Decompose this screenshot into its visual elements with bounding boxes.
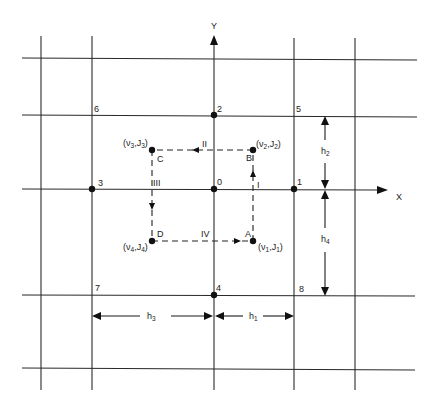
- h2-label: h2: [321, 146, 330, 157]
- grid-line-h-2: [22, 115, 417, 117]
- dimension-h4: h4: [321, 190, 330, 296]
- x-axis-label: X: [396, 192, 402, 202]
- path-label-I: I: [257, 180, 260, 190]
- grid-line-h-axis: [22, 189, 378, 190]
- grid-line-h-1: [22, 58, 417, 60]
- path-II-arrow-left-icon: [192, 147, 199, 153]
- h2-arrow-down-icon: [321, 180, 329, 189]
- grid-line-h-5: [22, 368, 415, 370]
- h2-arrow-up-icon: [321, 116, 329, 125]
- point-B-label: B: [246, 153, 252, 163]
- grid-line-h-4: [22, 295, 415, 296]
- grid-nodes: [89, 112, 297, 298]
- node-3-label: 3: [98, 178, 103, 188]
- node-0-label: 0: [217, 177, 222, 187]
- path-label-III: III: [153, 178, 161, 188]
- point-A-coord: (ν1,J1): [258, 242, 283, 253]
- point-D-label: D: [157, 229, 164, 239]
- point-C-dot: [149, 147, 155, 153]
- node-6-label: 6: [94, 104, 99, 114]
- node-labels: 0 1 2 3 4 5 6 7 8: [94, 104, 304, 294]
- point-C-label: C: [157, 154, 164, 164]
- path-I-arrow-up-icon: [250, 170, 256, 177]
- point-B-coord: (ν2,J2): [256, 139, 281, 150]
- h3-arrow-left-icon: [92, 312, 101, 320]
- node-7-label: 7: [95, 283, 100, 293]
- point-D-coord: (ν4,J4): [123, 242, 148, 253]
- node-8-label: 8: [299, 284, 304, 294]
- x-axis: X: [377, 186, 402, 202]
- h1-label: h1: [249, 311, 258, 322]
- y-axis-arrow-icon: [210, 35, 218, 45]
- integration-path: I II III IV: [149, 139, 260, 244]
- h3-label: h3: [147, 311, 156, 322]
- vertical-grid-lines: [41, 36, 355, 390]
- node-2-label: 2: [217, 104, 222, 114]
- h1-arrow-left-icon: [215, 312, 224, 320]
- finite-difference-grid-diagram: Y X 0 1 2 3 4 5 6 7 8 I II III: [0, 0, 440, 413]
- h4-arrow-down-icon: [321, 287, 329, 296]
- dimension-h1: h1: [215, 311, 294, 322]
- point-C-coord: (ν3,J3): [123, 138, 148, 149]
- node-4-label: 4: [216, 283, 221, 293]
- y-axis-label: Y: [211, 21, 217, 31]
- x-axis-arrow-icon: [377, 186, 388, 194]
- point-A-label: A: [245, 229, 251, 239]
- node-1-label: 1: [297, 177, 302, 187]
- path-label-IV: IV: [201, 229, 210, 239]
- y-axis: Y: [210, 21, 218, 45]
- h4-label: h4: [321, 234, 330, 245]
- node-5-label: 5: [296, 104, 301, 114]
- node-3-dot: [89, 186, 95, 192]
- point-D-dot: [149, 238, 155, 244]
- path-IV-arrow-right-icon: [234, 238, 241, 244]
- h4-arrow-up-icon: [321, 190, 329, 199]
- dimension-h3: h3: [92, 311, 213, 322]
- path-label-II: II: [202, 139, 207, 149]
- h1-arrow-right-icon: [285, 312, 294, 320]
- dimension-h2: h2: [321, 116, 330, 189]
- h3-arrow-right-icon: [204, 312, 213, 320]
- path-III-arrow-down-icon: [149, 203, 155, 210]
